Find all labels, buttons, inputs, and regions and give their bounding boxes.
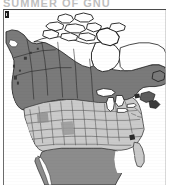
clipped-caption-text: SUMMER OF GNU	[0, 0, 169, 7]
map-frame[interactable]	[3, 9, 166, 185]
north-america-range-map[interactable]	[4, 10, 166, 185]
scan-registration-mark	[5, 11, 9, 18]
newfoundland-island[interactable]	[152, 71, 165, 82]
figure-panel: SUMMER OF GNU	[0, 0, 169, 185]
interior-west-dark-patch	[61, 121, 75, 135]
interior-west-dark-patch-2	[37, 112, 49, 123]
